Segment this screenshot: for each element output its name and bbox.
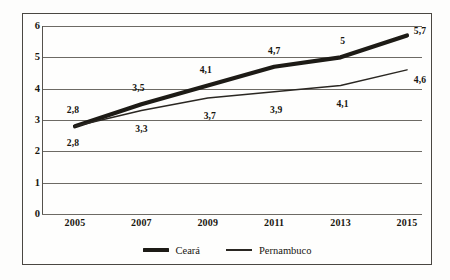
value-label-pernambuco-2013: 4,1 (336, 97, 348, 108)
y-tick-label-1: 1 (28, 178, 40, 189)
value-label-cear-2009: 4,1 (200, 63, 212, 74)
value-label-pernambuco-2007: 3,3 (135, 122, 147, 133)
thick-line-swatch-icon (143, 248, 169, 252)
y-tick-label-0: 0 (28, 209, 40, 220)
line-chart-figure: 0123456 2,83,54,14,755,72,83,33,73,94,14… (0, 0, 450, 280)
y-tick-label-2: 2 (28, 146, 40, 157)
legend-item-pernambuco[interactable]: Pernambuco (226, 245, 312, 256)
legend-label-ceara: Ceará (176, 245, 200, 256)
value-label-cear-2011: 4,7 (268, 44, 280, 55)
chart-legend: Ceará Pernambuco (22, 240, 432, 260)
value-label-cear-2015: 5,7 (414, 25, 426, 36)
legend-label-pernambuco: Pernambuco (259, 245, 312, 256)
thin-line-swatch-icon (226, 249, 252, 251)
y-tick-label-4: 4 (28, 84, 40, 95)
y-tick-label-5: 5 (28, 52, 40, 63)
y-tick-label-6: 6 (28, 21, 40, 32)
value-label-pernambuco-2005: 2,8 (67, 137, 79, 148)
gridline-y-0 (42, 214, 422, 215)
x-axis-tick-labels: 200520072009201120132015 (42, 217, 422, 233)
value-label-pernambuco-2009: 3,7 (204, 110, 216, 121)
value-label-cear-2005: 2,8 (67, 104, 79, 115)
x-tick-label-2013: 2013 (330, 217, 351, 228)
y-tick-label-3: 3 (28, 115, 40, 126)
value-label-pernambuco-2011: 3,9 (270, 103, 282, 114)
value-label-cear-2007: 3,5 (132, 82, 144, 93)
legend-item-ceara[interactable]: Ceará (143, 245, 200, 256)
value-label-pernambuco-2015: 4,6 (414, 73, 426, 84)
x-tick-label-2005: 2005 (65, 217, 86, 228)
x-tick-label-2011: 2011 (264, 217, 284, 228)
x-tick-label-2015: 2015 (397, 217, 418, 228)
x-tick-label-2007: 2007 (131, 217, 152, 228)
x-tick-label-2009: 2009 (197, 217, 218, 228)
data-point-labels: 2,83,54,14,755,72,83,33,73,94,14,6 (42, 26, 422, 214)
value-label-cear-2013: 5 (340, 35, 345, 46)
